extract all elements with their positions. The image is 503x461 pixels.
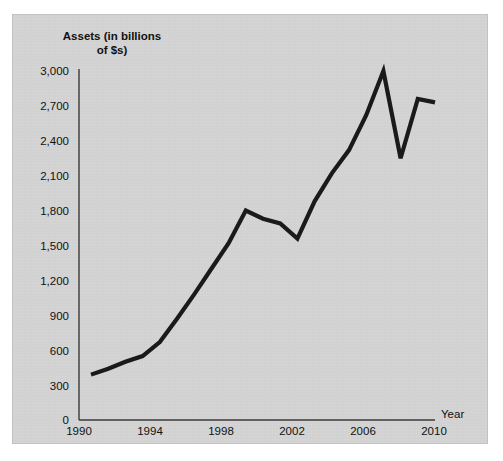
y-tick-label-3000: 3,000: [21, 65, 69, 77]
y-tick-label-600: 600: [21, 345, 69, 357]
y-tick-label-1800: 1,800: [21, 205, 69, 217]
x-tick-label-2006: 2006: [341, 425, 385, 437]
y-tick-label-2700: 2,700: [21, 100, 69, 112]
chart-panel: Assets (in billions of $s) 3,000 2,700 2…: [12, 14, 488, 444]
x-tick-label-1998: 1998: [199, 425, 243, 437]
caption-remnant: [14, 0, 434, 9]
y-tick-label-2100: 2,100: [21, 170, 69, 182]
axes: [79, 69, 435, 420]
y-tick-label-1200: 1,200: [21, 275, 69, 287]
y-tick-label-300: 300: [21, 380, 69, 392]
x-tick-label-1990: 1990: [57, 425, 101, 437]
x-tick-label-1994: 1994: [128, 425, 172, 437]
y-tick-label-1500: 1,500: [21, 240, 69, 252]
x-tick-label-2002: 2002: [270, 425, 314, 437]
x-tick-label-2010: 2010: [412, 425, 456, 437]
plot-area: [13, 15, 488, 444]
data-series-line: [91, 71, 435, 375]
x-axis-title: Year: [441, 408, 464, 420]
y-tick-label-900: 900: [21, 310, 69, 322]
y-tick-label-2400: 2,400: [21, 135, 69, 147]
figure: Assets (in billions of $s) 3,000 2,700 2…: [0, 0, 503, 461]
